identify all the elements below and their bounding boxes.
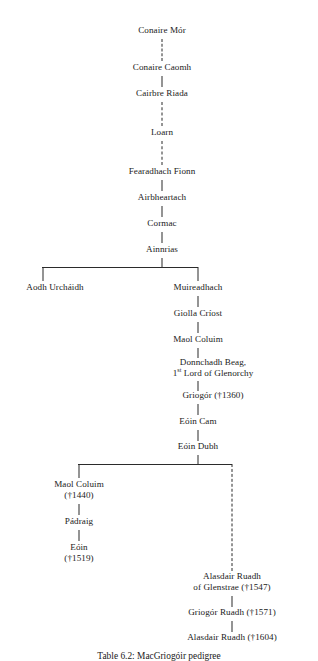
connector-loarn-to-fearadhach-fionn — [162, 141, 163, 165]
connector-to-muireadhach — [198, 267, 199, 281]
connector-cormac-to-ainnrias — [162, 232, 163, 243]
node-loarn: Loarn — [151, 127, 173, 138]
node-conaire-mor: Conaire Mór — [138, 25, 186, 36]
connector-giolla-criost-to-maol-coluim — [198, 322, 199, 333]
table-caption: Table 6.2: MacGriogóir pedigree — [0, 651, 318, 661]
node-maol-coluim-first: Maol Coluim — [173, 334, 223, 345]
connector-griogor-ruadh-to-alasdair-1604 — [232, 621, 233, 632]
connector-conaire-caomh-to-cairbre-riada — [162, 76, 163, 87]
node-conaire-caomh: Conaire Caomh — [133, 62, 191, 73]
connector-airbheartach-to-cormac — [162, 206, 163, 217]
node-padraig: Pádraig — [65, 516, 93, 527]
connector-griogor-to-eoin-cam — [198, 404, 199, 415]
node-eoin-cam: Eóin Cam — [179, 416, 216, 427]
connector-to-maol-coluim-1440 — [79, 464, 80, 478]
connector-muireadhach-to-giolla-criost — [198, 296, 199, 307]
connector-conaire-mor-to-conaire-caomh — [162, 39, 163, 61]
node-aodh-urchaidh: Aodh Urcháidh — [26, 282, 83, 293]
node-alasdair-ruadh-1604: Alasdair Ruadh (†1604) — [187, 632, 277, 643]
donnchadh-beag-title: 1st Lord of Glenorchy — [173, 368, 254, 379]
connector-ainnrias-stem — [162, 258, 163, 267]
node-maol-coluim-1440: Maol Coluim (†1440) — [54, 479, 104, 501]
node-cormac: Cormac — [147, 218, 176, 229]
node-airbheartach: Airbheartach — [138, 192, 186, 203]
connector-to-aodh-urchaidh — [43, 267, 44, 281]
node-muireadhach: Muireadhach — [174, 282, 223, 293]
node-fearadhach-fionn: Fearadhach Fionn — [129, 166, 196, 177]
connector-eoin-dubh-crossbar — [78, 464, 232, 465]
connector-alasdair-to-griogor-ruadh — [232, 596, 233, 607]
connector-fearadhach-fionn-to-airbheartach — [162, 180, 163, 191]
node-griogor-1360: Griogór (†1360) — [182, 390, 243, 401]
connector-eoin-cam-to-eoin-dubh — [198, 430, 199, 441]
node-ainnrias: Ainnrias — [146, 244, 178, 255]
node-giolla-criost: Giolla Críost — [174, 308, 222, 319]
connector-ainnrias-crossbar — [42, 267, 198, 268]
connector-padraig-to-eoin-1519 — [79, 530, 80, 541]
node-griogor-ruadh-1571: Griogór Ruadh (†1571) — [188, 607, 276, 618]
node-cairbre-riada: Cairbre Riada — [136, 88, 188, 99]
node-eoin-dubh: Eóin Dubh — [178, 441, 218, 452]
connector-maol-coluim-to-padraig — [79, 504, 80, 515]
connector-to-alasdair-ruadh-glenstrae — [232, 464, 233, 571]
connector-cairbre-riada-to-loarn — [162, 102, 163, 126]
node-alasdair-ruadh-1547: Alasdair Ruadh of Glenstrae (†1547) — [193, 571, 270, 593]
node-donnchadh-beag: Donnchadh Beag, 1st Lord of Glenorchy — [173, 357, 254, 379]
connector-eoin-dubh-stem — [198, 455, 199, 464]
node-eoin-1519: Eóin (†1519) — [64, 542, 93, 564]
